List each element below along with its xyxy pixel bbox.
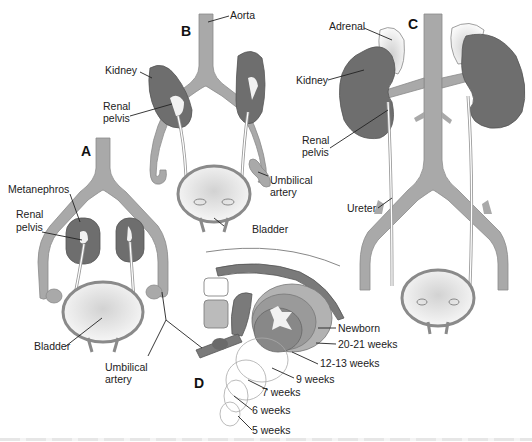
label-stage-5-weeks: 5 weeks [252,424,291,436]
label-kidney-c: Kidney [296,74,328,86]
label-metanephros: Metanephros [8,183,69,195]
label-aorta: Aorta [230,9,255,21]
panel-c-artwork [339,14,524,334]
panel-label-c: C [408,16,418,32]
label-stage-9-weeks: 9 weeks [296,373,335,385]
label-stage-20-21-weeks: 20-21 weeks [338,338,398,350]
label-kidney-b: Kidney [105,64,137,76]
label-bladder-a: Bladder [34,340,70,352]
label-umbilical-artery-a-line1: Umbilical [105,361,148,373]
label-umbilical-artery-b-line2: artery [270,186,297,198]
panel-d-artwork [196,248,344,426]
label-adrenal: Adrenal [329,20,365,32]
label-renal-pelvis-b-line2: pelvis [103,112,130,124]
label-bladder-b: Bladder [252,223,288,235]
panel-label-b: B [181,23,191,39]
panel-b-artwork [149,14,270,232]
label-umbilical-artery-b-line1: Umbilical [270,174,313,186]
label-renal-pelvis-a-line1: Renal [16,208,43,220]
cropped-caption-edge [0,438,532,441]
label-stage-6-weeks: 6 weeks [252,404,291,416]
label-renal-pelvis-c-line1: Renal [302,134,329,146]
kidney-development-diagram: B A C D Aorta Kidney Renal pelvis Umbili… [0,0,532,442]
label-renal-pelvis-a-line2: pelvis [16,221,43,233]
label-umbilical-artery-a-line2: artery [105,373,132,385]
label-ureter: Ureter [347,202,376,214]
label-stage-7-weeks: 7 weeks [262,386,301,398]
panel-label-d: D [194,375,204,391]
panel-label-a: A [81,143,91,159]
label-stage-12-13-weeks: 12-13 weeks [320,357,380,369]
panel-a-artwork [38,138,168,352]
label-renal-pelvis-b-line1: Renal [103,100,130,112]
label-renal-pelvis-c-line2: pelvis [302,146,329,158]
diagram-artwork [0,0,532,442]
label-stage-newborn: Newborn [338,322,380,334]
